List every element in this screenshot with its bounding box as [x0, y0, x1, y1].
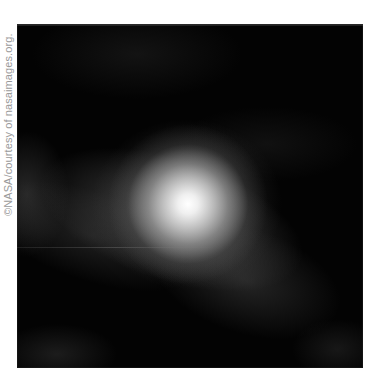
image-credit: ©NASA/courtesy of nasaimages.org. [0, 0, 17, 220]
bottom-haze [17, 24, 363, 368]
image-top-edge [17, 24, 363, 26]
credit-text: ©NASA/courtesy of nasaimages.org. [1, 33, 15, 216]
astronomy-photo [17, 24, 363, 368]
scan-artifact-line [17, 247, 217, 248]
